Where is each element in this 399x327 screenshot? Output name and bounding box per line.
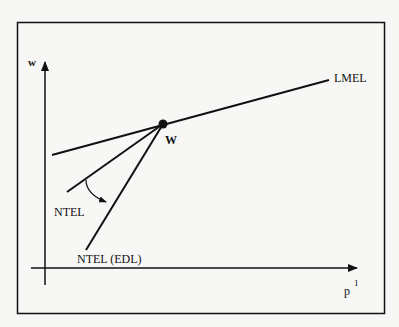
y-axis-label: w [28,56,36,68]
x-axis-label: p [344,284,350,298]
lmel-line [52,80,329,155]
lmel-label: LMEL [334,71,367,85]
x-axis-label-superscript: 1 [354,278,359,288]
ntel-edl-label: NTEL (EDL) [77,252,142,266]
ntel-label: NTEL [54,205,85,219]
diagram-canvas: w W LMEL NTEL NTEL (EDL) p 1 [0,0,399,327]
frame-border [18,23,385,314]
point-w-label: W [165,133,177,147]
point-w [159,120,168,129]
ntel-line [67,124,163,192]
rotation-arrow-icon [86,180,106,202]
